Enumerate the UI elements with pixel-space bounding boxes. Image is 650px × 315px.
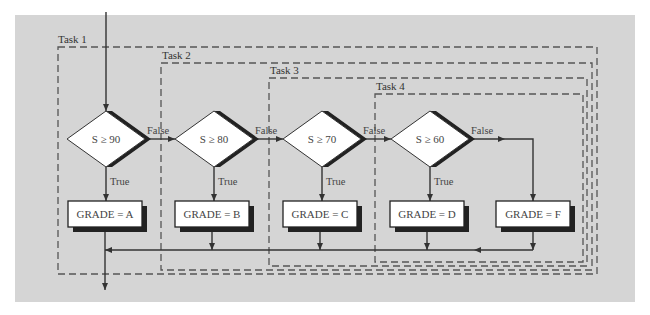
process-node: GRADE = F: [496, 201, 575, 232]
decision-label: S ≥ 70: [308, 133, 337, 145]
false-label: False: [363, 125, 386, 136]
process-label: GRADE = C: [292, 208, 349, 220]
flowchart-diagram: Task 1Task 2Task 3Task 4 S ≥ 90S ≥ 80S ≥…: [0, 0, 650, 315]
process-label: GRADE = F: [505, 208, 561, 220]
process-node: GRADE = B: [175, 201, 254, 232]
true-label: True: [110, 176, 130, 187]
true-label: True: [434, 176, 454, 187]
process-node: GRADE = D: [390, 201, 469, 232]
false-label: False: [147, 125, 170, 136]
true-label: True: [326, 176, 346, 187]
task-label: Task 3: [270, 64, 299, 76]
task-label: Task 4: [376, 80, 405, 92]
process-node: GRADE = A: [68, 201, 147, 232]
process-label: GRADE = B: [184, 208, 241, 220]
task-label: Task 2: [162, 49, 191, 61]
process-node: GRADE = C: [283, 201, 362, 232]
decision-label: S ≥ 90: [92, 133, 121, 145]
false-label: False: [471, 125, 494, 136]
true-label: True: [218, 176, 238, 187]
task-label: Task 1: [58, 33, 87, 45]
process-label: GRADE = A: [77, 208, 134, 220]
false-label: False: [255, 125, 278, 136]
process-label: GRADE = D: [398, 208, 456, 220]
decision-label: S ≥ 60: [416, 133, 445, 145]
decision-label: S ≥ 80: [200, 133, 229, 145]
